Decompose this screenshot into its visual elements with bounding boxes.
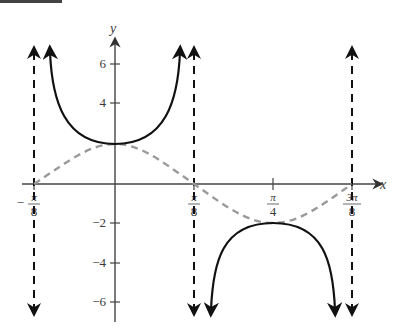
x-tick-label-pi-4: π 4 [267,191,279,219]
svg-text:π: π [270,191,276,203]
chart: x y 6 4 −2 −4 −6 − π 8 π 8 [0,0,396,328]
y-tick-label-neg2: −2 [92,215,106,230]
x-tick-label-neg-pi-8: − π 8 [17,191,40,219]
asymptotes [34,52,352,310]
y-tick-label-neg6: −6 [92,294,106,309]
y-tick-label-4: 4 [100,95,107,110]
y-ticks: 6 4 −2 −4 −6 [92,56,120,309]
y-axis-label: y [108,21,117,36]
svg-text:−: − [17,195,24,210]
secant-branch-2 [211,223,335,310]
y-tick-label-neg4: −4 [92,255,106,270]
x-axis-label: x [379,177,387,192]
svg-text:4: 4 [270,204,277,219]
y-tick-label-6: 6 [100,56,107,71]
